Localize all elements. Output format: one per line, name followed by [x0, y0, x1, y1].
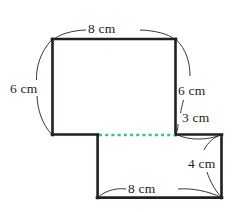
dimension-arc-bottom-right	[178, 189, 222, 198]
dimension-arc-left-upper	[36, 40, 52, 81]
dimension-label-right-lower: 4 cm	[188, 157, 215, 171]
figure-container: 8 cm 6 cm 6 cm 3 cm 4 cm 8 cm	[0, 0, 240, 212]
dimension-arc-right-lower	[207, 172, 222, 197]
composite-shape-drawing	[0, 0, 240, 212]
dimension-label-right-upper: 6 cm	[178, 84, 205, 98]
dimension-arc-right-upper	[176, 40, 190, 77]
dimension-label-top: 8 cm	[88, 22, 115, 36]
dimension-label-left: 6 cm	[10, 82, 37, 96]
dimension-arc-left-lower	[37, 96, 52, 135]
dimension-arc-bottom-left	[98, 189, 127, 198]
dimension-label-right-middle: 3 cm	[182, 111, 209, 125]
dimension-label-bottom: 8 cm	[128, 182, 155, 196]
